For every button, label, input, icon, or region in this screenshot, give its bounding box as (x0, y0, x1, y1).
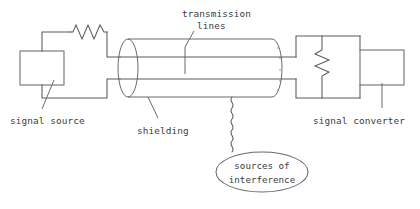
interference-wave (231, 97, 233, 152)
shielding-label: shielding (137, 125, 189, 136)
interference-ellipse (216, 152, 308, 192)
transmission-label-line2: lines (197, 20, 226, 31)
signal-source-box (20, 51, 64, 85)
converter-top-wire (296, 36, 360, 57)
interference-label-line2: interference (229, 174, 295, 185)
source-top-wire (42, 32, 70, 51)
interference-label-line1: sources of (234, 160, 289, 171)
shielding-leader (148, 97, 158, 118)
transmission-lines-leader (185, 31, 194, 74)
signal-source-label: signal source (10, 115, 85, 126)
diagram-canvas: transmission lines signal source shieldi… (0, 0, 420, 209)
cylinder-left-cap (118, 39, 138, 97)
signal-converter-box (360, 50, 404, 85)
source-series-resistor (70, 25, 107, 39)
signal-converter-label: signal converter (313, 115, 405, 126)
signal-source-leader (42, 80, 54, 109)
technical-diagram: transmission lines signal source shieldi… (0, 0, 420, 209)
converter-bottom-wire (296, 79, 360, 98)
termination-resistor (315, 36, 329, 98)
source-resistor-to-line-wire (107, 32, 120, 57)
transmission-label-line1: transmission (182, 8, 251, 19)
